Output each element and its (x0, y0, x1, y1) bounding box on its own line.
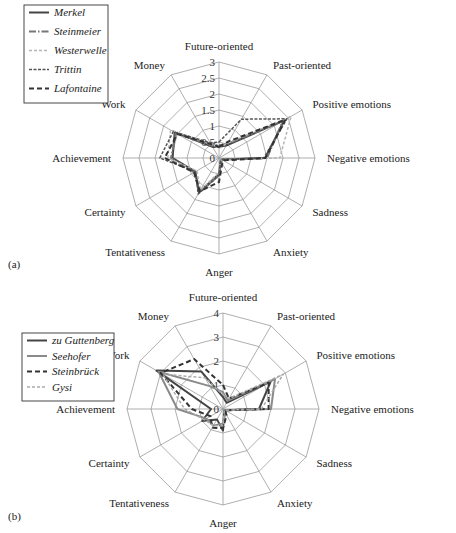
legend: zu GuttenbergSeehoferSteinbrückGysi (22, 333, 115, 401)
legend-label: Steinbrück (52, 365, 100, 377)
tick-label: 2 (214, 355, 220, 367)
axis-label-future-oriented: Future-oriented (189, 291, 258, 303)
panel-label-a: (a) (8, 258, 21, 271)
panel-label-b: (b) (8, 510, 21, 523)
axis-label-anxiety: Anxiety (273, 246, 309, 258)
grid-spoke (140, 361, 223, 409)
axis-label-past-oriented: Past-oriented (273, 59, 332, 71)
axis-label-certainty: Certainty (89, 457, 130, 469)
axis-label-certainty: Certainty (85, 206, 126, 218)
grid-spoke (175, 409, 223, 492)
legend-label: Seehofer (52, 350, 91, 362)
axis-label-future-oriented: Future-oriented (185, 40, 254, 52)
grid-spoke (219, 158, 302, 206)
grid-spoke (219, 158, 267, 241)
axis-label-positive-emotions: Positive emotions (317, 349, 396, 361)
axis-label-negative-emotions: Negative emotions (331, 403, 414, 415)
axis-label-money: Money (134, 59, 166, 71)
axis-label-positive-emotions: Positive emotions (313, 98, 392, 110)
axis-label-achievement: Achievement (52, 152, 111, 164)
legend-label: Westerwelle (54, 44, 107, 56)
legend-label: zu Guttenberg (51, 334, 115, 346)
axis-label-past-oriented: Past-oriented (277, 310, 336, 322)
grid-spoke (223, 409, 271, 492)
radar-chart-b: 01234Future-orientedPast-orientedPositiv… (22, 291, 414, 529)
axis-label-tentativeness: Tentativeness (105, 246, 165, 258)
tick-label: 2.5 (201, 72, 215, 84)
legend-label: Steinmeier (54, 25, 102, 37)
axis-label-achievement: Achievement (56, 403, 115, 415)
axis-label-sadness: Sadness (313, 206, 348, 218)
tick-label: 3 (210, 56, 216, 68)
tick-label: 3 (214, 331, 220, 343)
tick-label: 4 (214, 307, 220, 319)
axis-label-sadness: Sadness (317, 457, 352, 469)
tick-label: 0 (210, 152, 216, 164)
legend-label: Gysi (52, 381, 72, 393)
tick-label: 1 (210, 120, 216, 132)
tick-label: 1.5 (201, 104, 215, 116)
axis-label-anger: Anger (209, 517, 237, 529)
legend-label: Trittin (54, 63, 82, 75)
axis-label-money: Money (138, 310, 170, 322)
radar-chart-a: 00.511.522.53Future-orientedPast-oriente… (24, 5, 410, 278)
axis-label-anxiety: Anxiety (277, 497, 313, 509)
legend-label: Merkel (53, 6, 85, 18)
tick-label: 0 (214, 403, 220, 415)
legend-label: Lafontaine (53, 82, 102, 94)
axis-label-tentativeness: Tentativeness (109, 497, 169, 509)
legend: MerkelSteinmeierWesterwelleTrittinLafont… (24, 5, 108, 103)
grid-spoke (223, 409, 306, 457)
grid-spoke (136, 158, 219, 206)
radar-figure: 00.511.522.53Future-orientedPast-oriente… (0, 0, 456, 533)
series-steinbrück (161, 359, 269, 428)
axis-label-anger: Anger (205, 266, 233, 278)
axis-label-negative-emotions: Negative emotions (327, 152, 410, 164)
tick-label: 2 (210, 88, 216, 100)
